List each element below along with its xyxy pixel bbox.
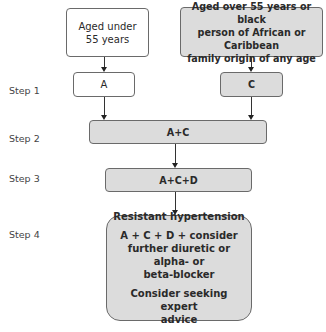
step-3-box: A+C+D [105, 168, 252, 192]
treatment-line-3: beta-blocker [143, 269, 214, 280]
treatment-line-1: A + C + D + consider [120, 230, 238, 241]
connector-line [251, 97, 252, 116]
step-4-label: Step 4 [9, 229, 40, 240]
start-left-line-2: 55 years [86, 33, 129, 46]
step-4-title: Resistant hypertension [113, 210, 244, 223]
treatment-line-2: further diuretic or alpha- or [128, 243, 230, 267]
start-box-under-55: Aged under 55 years [66, 8, 149, 57]
step-1-label: Step 1 [9, 85, 40, 96]
step-2-label: Step 2 [9, 133, 40, 144]
start-right-line-1: Aged over 55 years or black [181, 0, 322, 26]
advice-line-2: advice [161, 314, 198, 325]
step-1-box-c: C [220, 72, 283, 97]
step-1-a-text: A [101, 78, 108, 91]
connector-line [175, 192, 176, 211]
step-2-box: A+C [89, 120, 267, 144]
advice-line-1: Consider seeking expert [131, 288, 228, 312]
step-4-box: Resistant hypertension A + C + D + consi… [106, 215, 252, 321]
start-left-line-1: Aged under [78, 20, 136, 33]
step-4-treatment: A + C + D + consider further diuretic or… [113, 229, 245, 281]
step-3-label: Step 3 [9, 173, 40, 184]
start-right-line-2: person of African or Caribbean [181, 26, 322, 52]
connector-line [104, 97, 105, 116]
step-3-text: A+C+D [159, 174, 198, 187]
step-1-c-text: C [248, 78, 255, 91]
step-4-advice: Consider seeking expert advice [113, 287, 245, 326]
step-2-text: A+C [167, 126, 190, 139]
step-1-box-a: A [73, 72, 135, 97]
connector-line [175, 144, 176, 164]
start-box-over-55-or-black: Aged over 55 years or black person of Af… [180, 7, 323, 57]
